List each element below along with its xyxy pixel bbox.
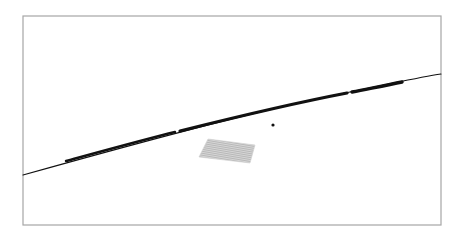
curve-thick-segment xyxy=(66,132,175,161)
diagram-svg xyxy=(0,0,468,237)
hatched-patch xyxy=(199,139,255,163)
point-marker xyxy=(271,123,274,126)
diagram-canvas xyxy=(0,0,468,237)
curve-thick-segment xyxy=(180,93,347,131)
plot-frame xyxy=(23,16,441,225)
curve-thick-segment xyxy=(352,82,402,92)
